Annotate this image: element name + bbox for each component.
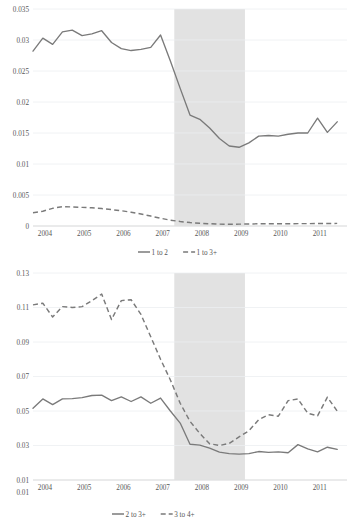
y-axis-tick-label: 0.01 bbox=[16, 477, 29, 485]
legend-label-3-to-4+: 3 to 4+ bbox=[174, 511, 194, 519]
legend-label-2-to-3+: 2 to 3+ bbox=[126, 511, 146, 519]
y-axis-tick-label: 0.13 bbox=[16, 270, 29, 278]
y-axis-tick-label: 0.05 bbox=[16, 408, 29, 416]
x-axis-tick-label: 2005 bbox=[77, 230, 92, 238]
x-axis-tick-label: 2011 bbox=[313, 230, 328, 238]
x-axis-tick-label: 2011 bbox=[313, 484, 328, 492]
x-axis-tick-label: 2009 bbox=[234, 484, 249, 492]
x-axis-tick-label: 2006 bbox=[116, 230, 131, 238]
y-axis-tick-label: 0.11 bbox=[17, 304, 30, 312]
x-axis-tick-label: 2005 bbox=[77, 484, 92, 492]
recession-band bbox=[174, 9, 245, 226]
x-axis-tick-label: 2008 bbox=[195, 484, 210, 492]
y-axis-tick-label: 0.09 bbox=[16, 339, 29, 347]
x-axis-tick-label: 2009 bbox=[234, 230, 249, 238]
line-chart-bottom: 0.010.010.030.050.070.090.110.1320042005… bbox=[0, 264, 351, 528]
y-axis-tick-label: 0.02 bbox=[16, 99, 29, 107]
y-axis-tick-label: 0.01 bbox=[16, 489, 29, 497]
x-axis-tick-label: 2010 bbox=[273, 484, 288, 492]
y-axis-tick-label: 0.015 bbox=[13, 130, 30, 138]
y-axis-tick-label: 0.07 bbox=[16, 373, 29, 381]
line-chart-top: 00.0050.010.0150.020.0250.030.0352004200… bbox=[0, 0, 351, 264]
legend-label-1-to-2: 1 to 2 bbox=[152, 249, 169, 257]
figure-container: 00.0050.010.0150.020.0250.030.0352004200… bbox=[0, 0, 351, 528]
chart-panel-top: 00.0050.010.0150.020.0250.030.0352004200… bbox=[0, 0, 351, 264]
y-axis-tick-label: 0.005 bbox=[13, 192, 30, 200]
y-axis-tick-label: 0.025 bbox=[13, 68, 30, 76]
y-axis-tick-label: 0.03 bbox=[16, 37, 29, 45]
x-axis-tick-label: 2007 bbox=[156, 484, 171, 492]
legend-label-1-to-3+: 1 to 3+ bbox=[197, 249, 217, 257]
x-axis-tick-label: 2006 bbox=[116, 484, 131, 492]
y-axis-tick-label: 0.03 bbox=[16, 442, 29, 450]
x-axis-tick-label: 2007 bbox=[156, 230, 171, 238]
chart-panel-bottom: 0.010.010.030.050.070.090.110.1320042005… bbox=[0, 264, 351, 528]
x-axis-tick-label: 2010 bbox=[273, 230, 288, 238]
x-axis-tick-label: 2004 bbox=[38, 484, 53, 492]
y-axis-tick-label: 0.01 bbox=[16, 161, 29, 169]
x-axis-tick-label: 2004 bbox=[38, 230, 53, 238]
y-axis-tick-label: 0.035 bbox=[13, 6, 30, 14]
y-axis-tick-label: 0 bbox=[25, 223, 29, 231]
x-axis-tick-label: 2008 bbox=[195, 230, 210, 238]
